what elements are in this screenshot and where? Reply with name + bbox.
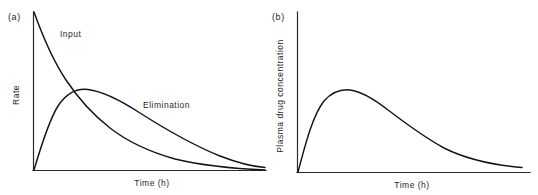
- panel-a: (a) Input Elimination Rate Time (h): [8, 12, 266, 188]
- panel-b-concentration-curve: [298, 90, 522, 172]
- panel-a-x-axis-title: Time (h): [134, 178, 169, 188]
- panel-a-y-axis-title: Rate: [11, 85, 21, 105]
- pharmacokinetics-figure: (a) Input Elimination Rate Time (h) (b) …: [0, 0, 538, 195]
- panel-b-tag: (b): [272, 12, 285, 22]
- panel-b-x-axis-title: Time (h): [394, 180, 429, 190]
- figure-root: (a) Input Elimination Rate Time (h) (b) …: [0, 0, 538, 195]
- panel-a-input-label: Input: [60, 29, 82, 39]
- panel-b-y-axis-title: Plasma drug concentration: [275, 39, 285, 153]
- panel-a-elimination-label: Elimination: [143, 100, 190, 110]
- panel-b: (b) Plasma drug concentration Time (h): [272, 12, 530, 190]
- panel-a-tag: (a): [8, 12, 21, 22]
